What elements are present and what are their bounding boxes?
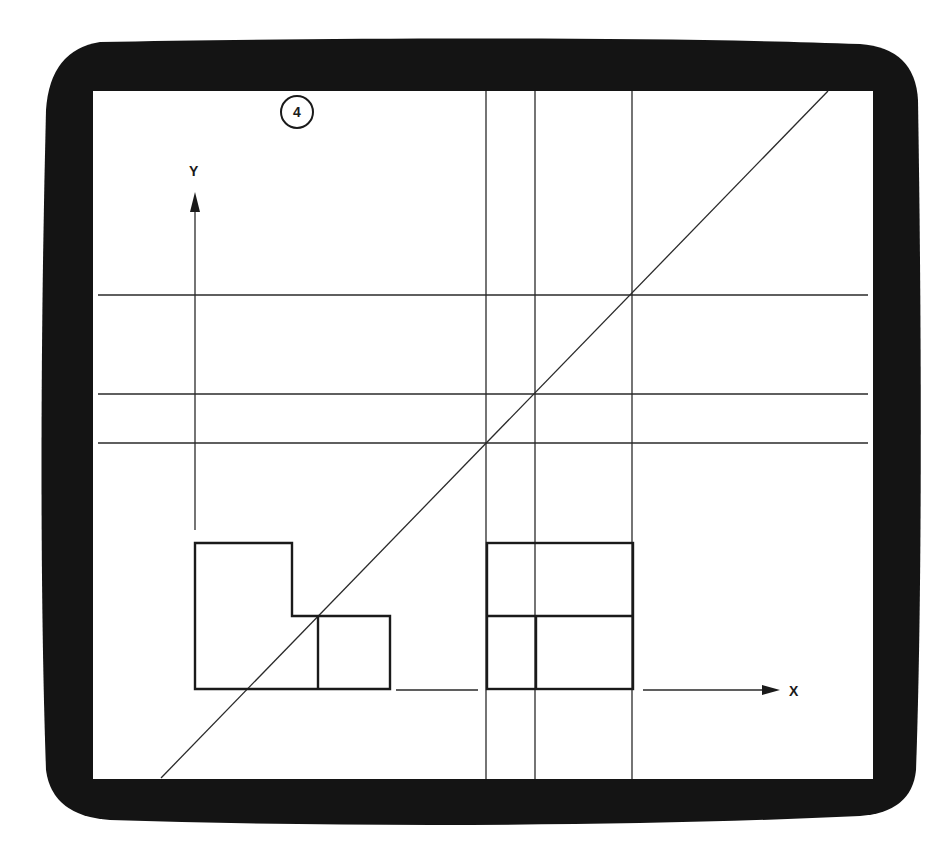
diagram-stage: 4 Y X [0, 0, 951, 859]
y-axis-label: Y [189, 164, 198, 178]
diagram-canvas [0, 0, 951, 859]
screen-area [93, 91, 873, 779]
figure-number-text: 4 [286, 104, 308, 120]
x-axis-label: X [789, 684, 798, 698]
